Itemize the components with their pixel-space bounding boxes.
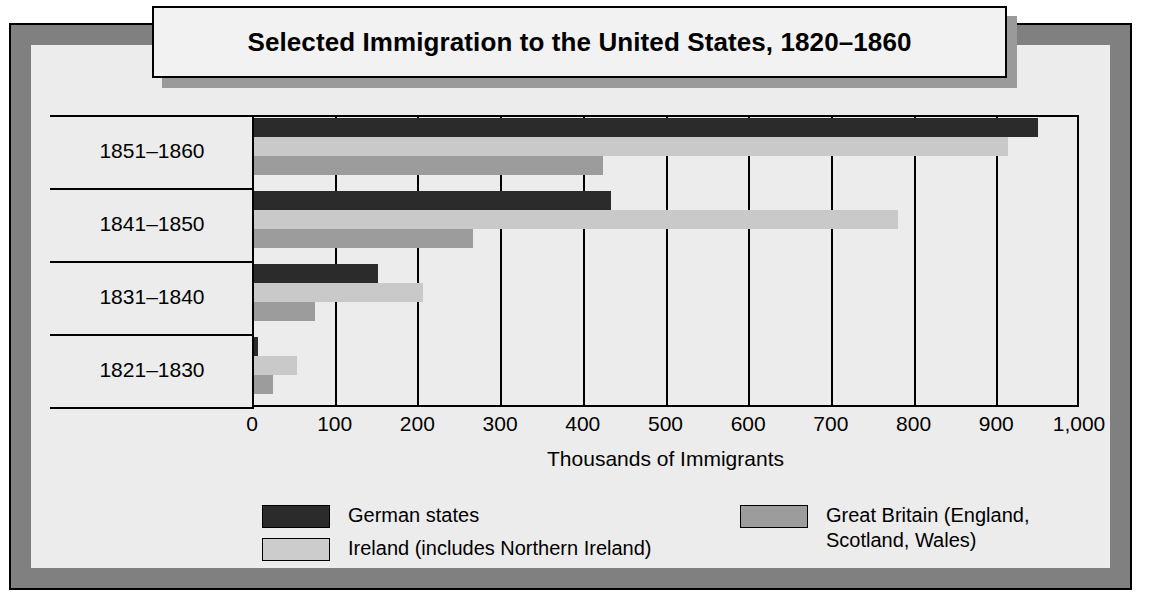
x-tick-label-500: 500 xyxy=(631,412,701,436)
x-tick-label-800: 800 xyxy=(879,412,949,436)
plot-area-border xyxy=(252,115,1079,407)
category-label: 1851–1860 xyxy=(58,139,246,163)
x-axis-title: Thousands of Immigrants xyxy=(252,447,1079,471)
x-tick-label-400: 400 xyxy=(548,412,618,436)
legend-swatch-ireland-icon xyxy=(262,538,330,561)
x-tick-label-200: 200 xyxy=(382,412,452,436)
x-tick-label-300: 300 xyxy=(465,412,535,436)
legend-item-ireland: Ireland (includes Northern Ireland) xyxy=(262,536,652,561)
x-tick-label-100: 100 xyxy=(300,412,370,436)
x-tick-label-900: 900 xyxy=(961,412,1031,436)
category-label: 1841–1850 xyxy=(58,212,246,236)
figure-container: Selected Immigration to the United State… xyxy=(0,0,1151,610)
x-tick-label-0: 0 xyxy=(217,412,287,436)
category-label: 1821–1830 xyxy=(58,358,246,382)
legend-swatch-german-icon xyxy=(262,505,330,528)
x-tick-label-700: 700 xyxy=(796,412,866,436)
row-separator xyxy=(50,407,254,409)
row-separator xyxy=(50,115,254,117)
legend-label-britain: Great Britain (England, Scotland, Wales) xyxy=(826,503,1029,553)
row-separator xyxy=(50,261,254,263)
legend-item-german: German states xyxy=(262,503,479,528)
x-tick-label-600: 600 xyxy=(713,412,783,436)
legend-label-ireland: Ireland (includes Northern Ireland) xyxy=(348,536,652,561)
legend-item-britain: Great Britain (England, Scotland, Wales) xyxy=(740,503,1029,553)
x-tick-label-1000: 1,000 xyxy=(1044,412,1114,436)
row-separator xyxy=(50,334,254,336)
legend-label-german: German states xyxy=(348,503,479,528)
row-separator xyxy=(50,188,254,190)
legend-swatch-britain-icon xyxy=(740,505,808,528)
category-label: 1831–1840 xyxy=(58,285,246,309)
